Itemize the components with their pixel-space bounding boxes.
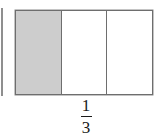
fraction-label: 1 3 <box>70 97 102 137</box>
bar-cell-3 <box>106 11 152 94</box>
adjacent-figure-edge-line <box>1 8 3 96</box>
bar-cell-1-shaded <box>16 11 61 94</box>
fraction-figure: 1 3 <box>0 0 158 139</box>
fraction-vinculum <box>81 116 92 117</box>
fraction-numerator: 1 <box>70 97 102 115</box>
bar-cell-2 <box>61 11 107 94</box>
fraction-bar-model <box>15 10 153 95</box>
fraction-denominator: 3 <box>70 118 102 137</box>
